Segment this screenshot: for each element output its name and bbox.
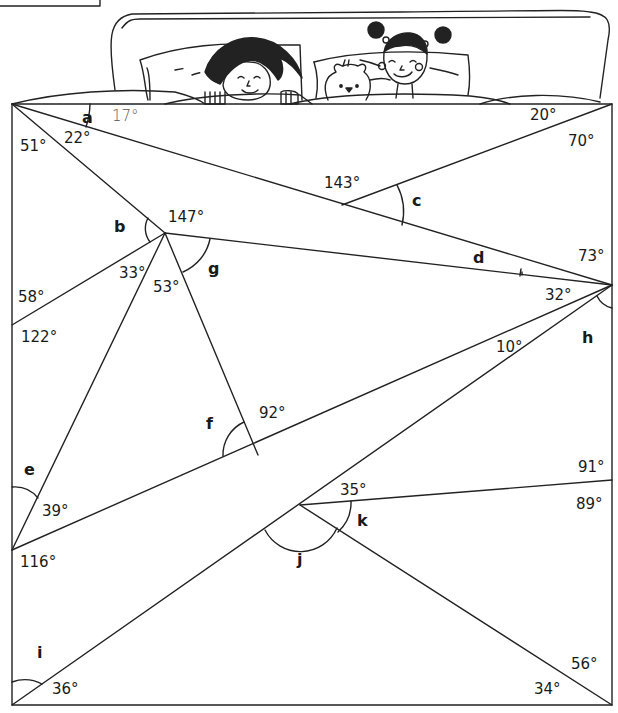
angle-label-i: i bbox=[37, 645, 42, 661]
header-box-fragment bbox=[0, 0, 100, 6]
angle-label-k: k bbox=[357, 513, 368, 529]
girl-right-face bbox=[384, 52, 427, 84]
angle-51: 51° bbox=[20, 139, 47, 154]
angle-label-b: b bbox=[114, 219, 125, 235]
angle-122: 122° bbox=[21, 330, 57, 345]
arc-b bbox=[145, 218, 150, 242]
angle-147: 147° bbox=[168, 210, 204, 225]
girl-right-hair bbox=[384, 33, 427, 54]
angle-70: 70° bbox=[568, 134, 595, 149]
angle-20: 20° bbox=[530, 108, 557, 123]
arc-i bbox=[12, 680, 42, 684]
angle-143: 143° bbox=[324, 176, 360, 191]
angle-diagram bbox=[0, 0, 618, 713]
angle-89: 89° bbox=[576, 497, 603, 512]
arc-f bbox=[223, 422, 244, 456]
cover-bumps bbox=[12, 91, 600, 105]
angle-10: 10° bbox=[496, 340, 523, 355]
angle-22: 22° bbox=[64, 131, 91, 146]
angle-label-d: d bbox=[473, 250, 484, 266]
arc-h bbox=[597, 296, 612, 308]
angle-label-j: j bbox=[297, 552, 302, 568]
angle-39: 39° bbox=[42, 504, 69, 519]
angle-73: 73° bbox=[578, 249, 605, 264]
angle-33: 33° bbox=[119, 266, 146, 281]
angle-116: 116° bbox=[20, 555, 56, 570]
angle-53: 53° bbox=[153, 280, 180, 295]
arc-k bbox=[338, 501, 351, 532]
angle-17: 17° bbox=[112, 109, 139, 124]
angle-34: 34° bbox=[534, 682, 561, 697]
pillow-right bbox=[314, 52, 470, 95]
girl-right-puff-right bbox=[435, 27, 451, 43]
angle-label-e: e bbox=[24, 462, 35, 478]
angle-58: 58° bbox=[18, 290, 45, 305]
angle-92: 92° bbox=[259, 406, 286, 421]
angle-label-f: f bbox=[206, 416, 213, 432]
arc-c bbox=[397, 185, 404, 225]
arc-g bbox=[183, 239, 210, 272]
angle-32: 32° bbox=[545, 288, 572, 303]
angle-label-a: a bbox=[82, 110, 93, 126]
angle-36: 36° bbox=[52, 682, 79, 697]
arc-j bbox=[265, 528, 337, 552]
angle-91: 91° bbox=[578, 460, 605, 475]
angle-label-h: h bbox=[582, 330, 593, 346]
girl-right-puff-left bbox=[368, 22, 384, 38]
arc-e bbox=[12, 487, 38, 498]
angle-label-g: g bbox=[208, 261, 219, 277]
angle-56: 56° bbox=[571, 657, 598, 672]
angle-35: 35° bbox=[340, 483, 367, 498]
angle-label-c: c bbox=[412, 193, 421, 209]
